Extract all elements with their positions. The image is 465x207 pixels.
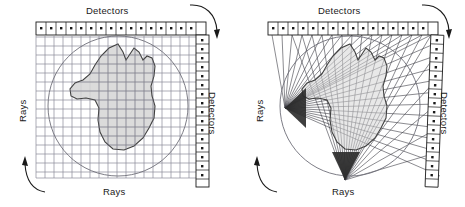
label-detectors-top: Detectors: [318, 5, 360, 16]
label-rays-left: Rays: [254, 100, 265, 122]
scanned-object: [70, 44, 155, 150]
label-detectors-top: Detectors: [86, 5, 128, 16]
panel-parallel-beam: Detectors Detectors Rays Rays: [0, 0, 232, 207]
panel-fan-beam: Detectors Detectors Rays Rays: [232, 0, 464, 207]
label-rays-bottom: Rays: [332, 186, 354, 197]
rotation-arrow-bottom-left: [254, 156, 277, 192]
label-rays-bottom: Rays: [103, 186, 125, 197]
label-detectors-right: Detectors: [207, 92, 218, 134]
detector-array-top[interactable]: [36, 22, 206, 35]
rotation-arrow-bottom-left: [22, 156, 45, 192]
fan-beam-drawing: [232, 0, 465, 207]
figure-canvas: Detectors Detectors Rays Rays: [0, 0, 465, 207]
label-detectors-right: Detectors: [439, 92, 450, 134]
detector-array-top[interactable]: [268, 22, 438, 35]
label-rays-left: Rays: [17, 100, 28, 122]
scanned-object: [302, 44, 387, 150]
parallel-beam-drawing: [0, 0, 232, 207]
